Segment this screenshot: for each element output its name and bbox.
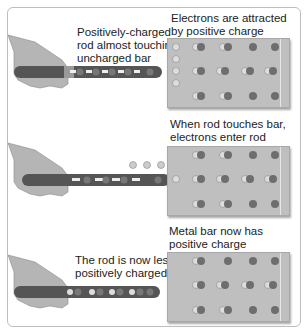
hand-icon	[8, 143, 68, 196]
bar-charges-1	[168, 39, 291, 109]
caption-line: Metal bar now has	[169, 225, 263, 238]
caption-line: electrons enter rod	[170, 131, 286, 144]
hand-icon	[8, 255, 68, 308]
metal-bar-2	[167, 146, 290, 216]
panel-before-touch: Electrons are attracted by positive char…	[0, 0, 306, 108]
hand-holding-rod-2	[0, 138, 170, 198]
hand-icon	[8, 35, 68, 88]
hand-holding-rod-3	[0, 250, 165, 310]
caption-line: positive charge	[169, 238, 263, 251]
caption-line: Electrons are attracted	[171, 12, 287, 25]
panel-touching: When rod touches bar, electrons enter ro…	[0, 108, 306, 216]
electrons-entering-rod	[130, 162, 165, 169]
hand-holding-rod-1	[0, 30, 165, 90]
bar-charges-3	[168, 253, 291, 323]
panel-after-touch: Metal bar now has positive charge The ro…	[0, 216, 306, 324]
bar-charges-2	[168, 147, 291, 217]
bar-caption-2: When rod touches bar, electrons enter ro…	[170, 118, 286, 144]
metal-bar-3	[167, 252, 290, 322]
bar-caption-3: Metal bar now has positive charge	[169, 225, 263, 251]
bar-caption-1: Electrons are attracted by positive char…	[171, 12, 287, 38]
metal-bar-1	[167, 38, 290, 108]
caption-line: When rod touches bar,	[170, 118, 286, 131]
caption-line: by positive charge	[171, 25, 287, 38]
